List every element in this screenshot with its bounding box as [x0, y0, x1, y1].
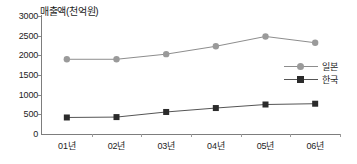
y-tick-mark	[38, 75, 41, 76]
data-point-marker	[213, 105, 219, 111]
legend-symbol-square-icon	[284, 75, 318, 85]
data-point-marker	[312, 101, 318, 107]
x-tick-label: 05년	[257, 139, 274, 152]
legend-label-japan: 일본	[322, 60, 337, 73]
x-tick-label: 01년	[58, 139, 75, 152]
x-tick-label: 04년	[207, 139, 224, 152]
x-tick-mark	[340, 134, 341, 137]
data-point-marker	[64, 114, 70, 120]
chart-title: 매출액(천억원)	[40, 3, 98, 18]
x-tick-label: 06년	[306, 139, 323, 152]
y-axis-line	[41, 15, 42, 135]
data-point-marker	[64, 56, 70, 62]
data-point-marker	[163, 51, 169, 57]
series-line-일본	[67, 36, 315, 59]
legend-item-korea: 한국	[284, 73, 354, 86]
y-tick-label: 0	[4, 129, 38, 139]
y-tick-mark	[38, 36, 41, 37]
data-point-marker	[213, 43, 219, 49]
chart-legend: 일본 한국	[284, 60, 354, 86]
y-tick-mark	[38, 95, 41, 96]
series-line-한국	[67, 104, 315, 118]
y-tick-label: 500	[4, 109, 38, 119]
legend-label-korea: 한국	[322, 73, 337, 86]
y-tick-label: 1500	[4, 70, 38, 80]
x-tick-mark	[141, 134, 142, 137]
legend-item-japan: 일본	[284, 60, 354, 73]
data-point-marker	[114, 114, 120, 120]
x-tick-mark	[92, 134, 93, 137]
data-point-marker	[163, 109, 169, 115]
x-tick-mark	[290, 134, 291, 137]
data-point-marker	[113, 56, 119, 62]
y-tick-label: 2000	[4, 50, 38, 60]
x-tick-mark	[241, 134, 242, 137]
sales-line-chart: 매출액(천억원) 050010001500200025003000 01년02년…	[0, 0, 357, 164]
y-tick-label: 2500	[4, 31, 38, 41]
x-tick-mark	[191, 134, 192, 137]
y-tick-mark	[38, 16, 41, 17]
y-tick-mark	[38, 55, 41, 56]
data-point-marker	[312, 40, 318, 46]
legend-symbol-circle-icon	[284, 62, 318, 72]
y-axis-tick-labels: 050010001500200025003000	[0, 0, 38, 164]
x-tick-label: 03년	[157, 139, 174, 152]
x-tick-label: 02년	[108, 139, 125, 152]
y-tick-label: 1000	[4, 90, 38, 100]
y-tick-mark	[38, 114, 41, 115]
y-tick-label: 3000	[4, 11, 38, 21]
data-point-marker	[263, 102, 269, 108]
data-point-marker	[262, 33, 268, 39]
